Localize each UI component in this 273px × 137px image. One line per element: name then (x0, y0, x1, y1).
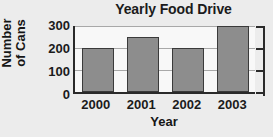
y-tick-label-200: 200 (36, 44, 70, 54)
chart-title: Yearly Food Drive (74, 1, 273, 17)
y-axis-title-line-2: of Cans (14, 19, 28, 67)
bar-2003 (217, 26, 249, 92)
right-axis-line (263, 26, 265, 96)
x-tick-label-2002: 2002 (172, 97, 201, 112)
y-tick-label-100: 100 (36, 67, 70, 77)
y-tick-label-0: 0 (36, 90, 70, 100)
bar-2001 (127, 37, 159, 92)
x-tick-label-2000: 2000 (81, 97, 110, 112)
bar-2000 (82, 48, 114, 92)
x-axis-title: Year (73, 114, 255, 129)
x-tick-label-2003: 2003 (218, 97, 247, 112)
x-axis-tick-labels: 2000 2001 2002 2003 (73, 97, 255, 112)
y-axis-title: Number of Cans (0, 3, 28, 83)
y-axis-tick-labels: 300 200 100 0 (36, 21, 70, 94)
plot-area (73, 26, 255, 94)
bar-2002 (172, 48, 204, 92)
bar-series (75, 26, 255, 92)
x-tick-label-2001: 2001 (127, 97, 156, 112)
y-tick-label-300: 300 (36, 21, 70, 31)
y-axis-title-line-1: Number (0, 18, 14, 67)
bar-chart: Yearly Food Drive Number of Cans 300 200… (0, 0, 273, 137)
